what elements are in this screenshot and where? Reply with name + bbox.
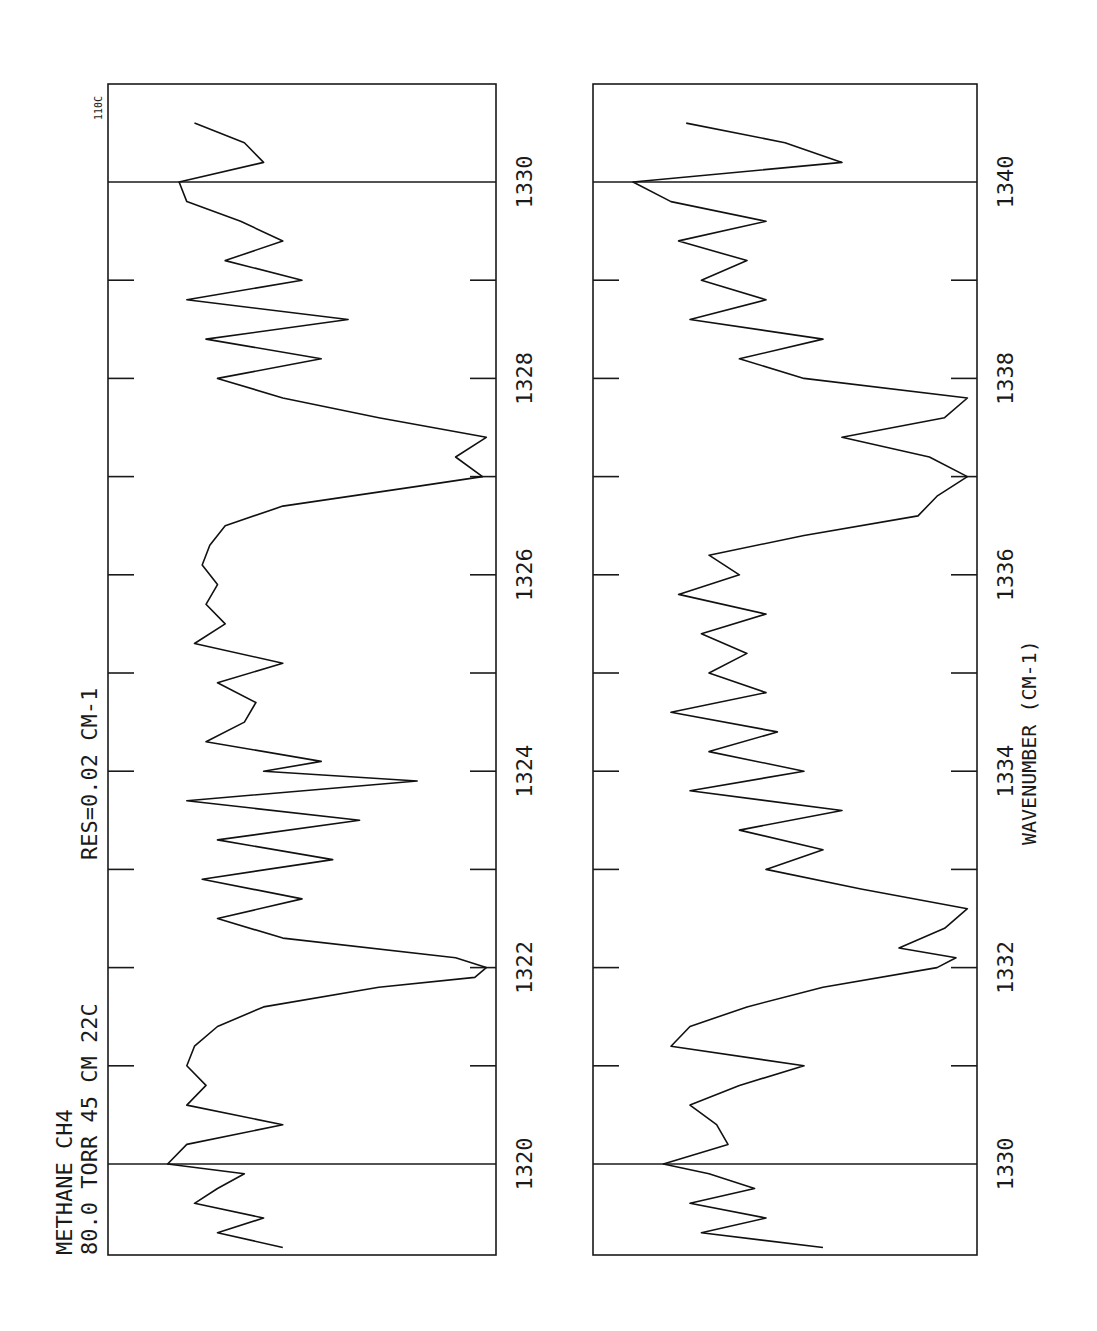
tick-label: 1338 xyxy=(993,352,1018,405)
tick-label: 1334 xyxy=(993,745,1018,798)
title-line-2: 80.0 TORR 45 CM 22C xyxy=(77,1003,102,1255)
upper-panel-frame xyxy=(108,84,496,1255)
tick-label: 1336 xyxy=(993,548,1018,601)
tick-label: 1332 xyxy=(993,941,1018,994)
tick-labels: 1320132213241326132813301330133213341336… xyxy=(512,156,1018,1191)
lower-spectrum-trace xyxy=(633,123,967,1247)
tick-label: 1322 xyxy=(512,941,537,994)
tick-label: 1330 xyxy=(512,156,537,209)
tick-label: 1324 xyxy=(512,745,537,798)
title-line-1: METHANE CH4 xyxy=(52,1109,77,1255)
tick-marks xyxy=(108,280,977,1066)
tick-label: 1326 xyxy=(512,548,537,601)
x-axis-label: WAVENUMBER (CM-1) xyxy=(1017,640,1041,845)
spectrum-figure: 1320132213241326132813301330133213341336… xyxy=(0,0,1097,1331)
lower-panel-frame xyxy=(593,84,977,1255)
upper-spectrum-trace xyxy=(168,123,487,1247)
resolution-label: RES=0.02 CM-1 xyxy=(77,688,102,860)
tick-label: 1330 xyxy=(993,1138,1018,1191)
page-tag: 110C xyxy=(93,96,104,120)
tick-label: 1340 xyxy=(993,156,1018,209)
tick-label: 1320 xyxy=(512,1138,537,1191)
tick-label: 1328 xyxy=(512,352,537,405)
